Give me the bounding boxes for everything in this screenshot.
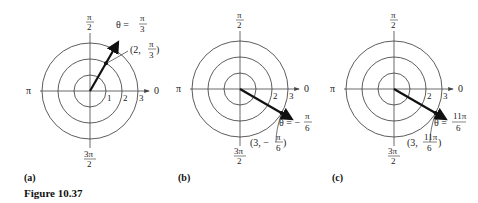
point-label-den: 6	[276, 143, 281, 153]
point-label-num: π	[276, 132, 281, 142]
point-marker	[104, 61, 108, 65]
theta-label-prefix: θ =	[116, 19, 129, 30]
figure-canvas: π 2 π 0 3π 2 1 2 3 θ = π 3 (2, π 3 ) (a)…	[0, 0, 478, 203]
label-zero: 0	[458, 83, 463, 94]
panel-caption-a: (a)	[24, 172, 36, 184]
panel-c: π 2 π 0 3π 2 2 3 θ = 11π 6 (3, 11π 6 ) (…	[330, 10, 467, 184]
theta-label-den: 3	[140, 24, 145, 34]
panel-caption-b: (b)	[178, 172, 190, 184]
label-half-pi-num: π	[237, 10, 242, 20]
point-label-left: (3, −	[250, 137, 269, 149]
point-label-den: 3	[149, 50, 154, 60]
theta-label-num: π	[140, 13, 145, 23]
label-pi: π	[176, 83, 181, 94]
label-three-half-pi-num: 3π	[388, 146, 398, 156]
point-label-num: π	[149, 39, 154, 49]
figure-title: Figure 10.37	[24, 187, 83, 199]
label-half-pi-den: 2	[237, 20, 242, 30]
label-three-half-pi-num: 3π	[234, 146, 244, 156]
label-half-pi-den: 2	[87, 22, 92, 32]
point-label-right: )	[438, 137, 441, 149]
ring-label-2: 2	[273, 91, 278, 101]
point-label-right: )	[283, 137, 286, 149]
panel-caption-c: (c)	[332, 172, 343, 184]
label-zero: 0	[154, 85, 159, 96]
label-three-half-pi-den: 2	[391, 156, 396, 166]
label-half-pi-num: π	[87, 12, 92, 22]
theta-label-num: 11π	[453, 111, 467, 121]
theta-label-num: π	[305, 111, 310, 121]
point-marker	[434, 111, 438, 115]
ring-label-3: 3	[289, 91, 294, 101]
point-label-den: 6	[427, 143, 432, 153]
label-half-pi-num: π	[391, 10, 396, 20]
label-three-half-pi-den: 2	[87, 159, 92, 169]
theta-ray	[90, 44, 117, 91]
ring-label-2: 2	[427, 91, 432, 101]
ring-label-3: 3	[443, 91, 448, 101]
theta-label-den: 6	[456, 123, 461, 133]
ring-label-2: 2	[123, 93, 128, 103]
label-pi: π	[330, 83, 335, 94]
label-three-half-pi-num: 3π	[84, 149, 94, 159]
label-zero: 0	[304, 83, 309, 94]
label-three-half-pi-den: 2	[237, 156, 242, 166]
label-half-pi-den: 2	[391, 20, 396, 30]
point-marker	[280, 111, 284, 115]
theta-label-prefix: θ = −	[279, 117, 300, 128]
point-label-num: 11π	[424, 132, 438, 142]
point-label-left: (3,	[407, 137, 418, 149]
theta-label-prefix: θ =	[434, 117, 447, 128]
label-pi: π	[26, 85, 31, 96]
theta-label-den: 6	[305, 123, 310, 133]
ring-label-3: 3	[139, 93, 144, 103]
panel-b: π 2 π 0 3π 2 2 3 θ = − π 6 (3, − π 6 ) (…	[176, 10, 312, 184]
panel-a: π 2 π 0 3π 2 1 2 3 θ = π 3 (2, π 3 ) (a)…	[24, 12, 159, 199]
point-label-right: )	[156, 44, 159, 56]
point-label-left: (2,	[130, 44, 141, 56]
ring-label-1: 1	[107, 93, 112, 103]
